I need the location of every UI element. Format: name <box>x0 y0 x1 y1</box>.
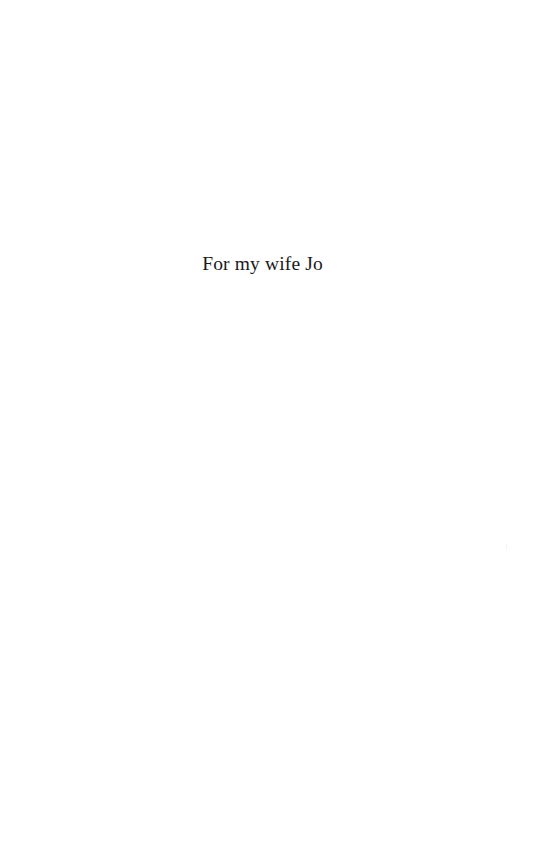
dedication-page: For my wife Jo <box>0 0 536 865</box>
scan-artifact-speck <box>506 543 507 550</box>
dedication-text: For my wife Jo <box>202 252 323 276</box>
dedication-block: For my wife Jo <box>0 252 536 276</box>
